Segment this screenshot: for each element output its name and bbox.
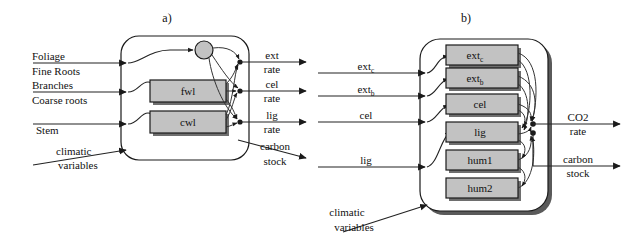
flow-diagram: a) fwl cwl Foliage Fine Roots Branches C… <box>0 0 629 247</box>
panel-a-title: a) <box>162 11 171 25</box>
output-label-co2-rate: rate <box>570 125 587 137</box>
output-label-carbon: carbon <box>260 140 290 152</box>
input-label-cel-b: cel <box>360 109 373 121</box>
input-label-stem: Stem <box>36 124 59 136</box>
input-label-lig-b: lig <box>360 154 372 166</box>
cwl-box-label: cwl <box>180 116 196 128</box>
output-label-cel: cel <box>266 78 279 90</box>
output-label-cel-rate: rate <box>264 92 281 104</box>
output-label-stock-b: stock <box>566 167 590 179</box>
output-label-ext: ext <box>265 49 278 61</box>
fwl-box-label: fwl <box>181 85 196 97</box>
litter-circle-node <box>195 41 213 59</box>
output-label-lig: lig <box>266 109 278 121</box>
input-label-foliage: Foliage <box>32 50 65 62</box>
output-label-lig-rate: rate <box>264 123 281 135</box>
input-label-fine-roots: Fine Roots <box>32 65 80 77</box>
input-label-branches: Branches <box>32 79 73 91</box>
figure-canvas: a) fwl cwl Foliage Fine Roots Branches C… <box>0 0 629 247</box>
climatic-label-a-line2: variables <box>58 159 98 171</box>
output-label-ext-rate: rate <box>264 63 281 75</box>
hum2-box-label: hum2 <box>467 182 492 194</box>
hum1-box-label: hum1 <box>467 154 492 166</box>
output-label-stock: stock <box>263 155 287 167</box>
output-label-co2: CO2 <box>568 111 589 123</box>
climatic-label-b-line2: variables <box>334 221 374 233</box>
lig-box-label: lig <box>474 126 486 138</box>
cel-box-label: cel <box>474 98 487 110</box>
panel-b-title: b) <box>461 11 471 25</box>
output-label-carbon-b: carbon <box>563 153 593 165</box>
climatic-label-a-line1: climatic <box>56 145 92 157</box>
input-label-coarse-roots: Coarse roots <box>32 94 87 106</box>
climatic-label-b-line1: climatic <box>329 206 365 218</box>
